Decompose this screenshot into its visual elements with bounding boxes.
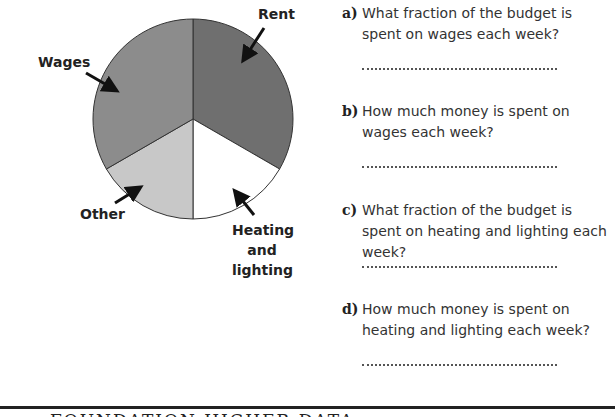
- answer-field-b[interactable]: [362, 166, 557, 168]
- answer-field-d[interactable]: [362, 364, 557, 366]
- question-text: What fraction of the budget is spent on …: [362, 3, 612, 45]
- label-heating-lighting: Heating and lighting: [232, 220, 292, 280]
- label-wages: Wages: [38, 52, 90, 72]
- label-heating-line2: and: [232, 240, 292, 260]
- question-text: What fraction of the budget is spent on …: [362, 200, 612, 263]
- question-letter: c): [342, 200, 357, 221]
- question-d: d) How much money is spent on heating an…: [342, 299, 612, 341]
- label-heating-line1: Heating: [232, 220, 292, 240]
- footer-divider: [0, 406, 615, 409]
- question-b: b) How much money is spent on wages each…: [342, 101, 612, 143]
- pie-chart: Rent Wages Other Heating and lighting: [0, 0, 320, 320]
- label-heating-line3: lighting: [232, 260, 292, 280]
- footer-text: FOUNDATION HIGHER DATA: [50, 410, 450, 417]
- question-c: c) What fraction of the budget is spent …: [342, 200, 612, 263]
- question-letter: b): [342, 101, 358, 122]
- answer-field-c[interactable]: [362, 266, 557, 268]
- label-other: Other: [80, 204, 125, 224]
- question-text: How much money is spent on heating and l…: [362, 299, 612, 341]
- question-letter: d): [342, 299, 358, 320]
- label-rent: Rent: [258, 4, 295, 24]
- question-a: a) What fraction of the budget is spent …: [342, 3, 612, 45]
- question-text: How much money is spent on wages each we…: [362, 101, 612, 143]
- answer-field-a[interactable]: [362, 68, 557, 70]
- question-letter: a): [342, 3, 358, 24]
